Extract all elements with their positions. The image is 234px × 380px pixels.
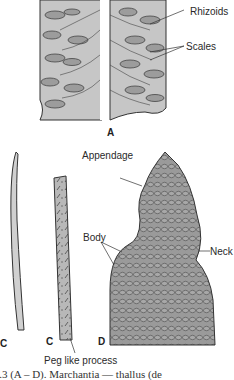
panel-d-scale <box>101 152 215 345</box>
label-appendage: Appendage <box>82 150 133 161</box>
panel-letter-a: A <box>107 127 114 138</box>
label-body: Body <box>83 232 106 243</box>
panel-letter-d: D <box>98 336 105 347</box>
figure-caption: e 5.3 (A – D). Marchantia — thallus (de <box>0 368 162 380</box>
panel-a-thallus <box>40 0 184 120</box>
panel-c2-tuberculate-rhizoid <box>54 176 72 340</box>
label-neck: Neck <box>210 246 233 257</box>
panel-c1-smooth-rhizoid <box>11 152 24 330</box>
label-rhizoids: Rhizoids <box>190 6 228 17</box>
label-scales: Scales <box>186 41 216 52</box>
panel-letter-c1: C <box>0 338 7 349</box>
label-peg-like-process: Peg like process <box>44 355 117 366</box>
panel-letter-c2: C <box>46 336 53 347</box>
